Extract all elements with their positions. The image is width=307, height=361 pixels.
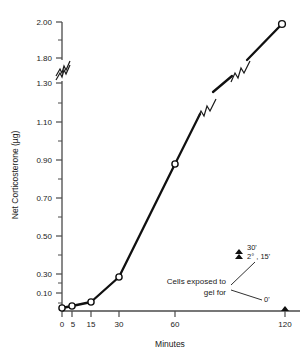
- exposure-label-30: 30': [247, 243, 257, 252]
- data-series-line: [62, 25, 281, 308]
- y-major-ticks: [56, 22, 62, 293]
- y-axis-break-icon: [56, 61, 70, 80]
- data-point-5: [69, 303, 75, 309]
- triangle-up-icon-top: [235, 249, 243, 254]
- x-tick-label-5: 5: [71, 320, 76, 329]
- y-tick-label-1-80: 1.80: [36, 54, 52, 63]
- y-tick-label-0-70: 0.70: [36, 194, 52, 203]
- data-markers: [59, 21, 286, 312]
- data-point-30: [116, 274, 122, 280]
- cells-exposed-note: Cells exposed to gel for: [167, 277, 227, 297]
- data-line-segment-lower: [62, 164, 175, 308]
- note-line-2: gel for: [204, 288, 227, 297]
- data-break-mark-2: [231, 61, 250, 82]
- x-tick-label-0: 0: [60, 320, 65, 329]
- data-line-break-marks: [197, 61, 250, 120]
- y-tick-label-0-50: 0.50: [36, 232, 52, 241]
- x-ticks: [62, 311, 285, 317]
- y-tick-label-0-30: 0.30: [36, 270, 52, 279]
- data-point-15: [88, 299, 94, 305]
- triangle-up-icon-bottom: [235, 254, 243, 259]
- leader-line-to-exposure-markers: [231, 262, 255, 285]
- zero-exposure-marker-group: 0': [264, 295, 289, 311]
- data-point-60: [172, 161, 178, 167]
- x-tick-label-15: 15: [87, 320, 96, 329]
- note-line-1: Cells exposed to: [167, 277, 227, 286]
- leader-line-to-zero-marker: [231, 290, 262, 300]
- data-point-0: [59, 305, 65, 311]
- x-axis-title: Minutes: [155, 339, 185, 349]
- y-axis-title: Net Corticosterone (µg): [10, 131, 20, 220]
- y-tick-label-1-10: 1.10: [36, 118, 52, 127]
- y-tick-label-0-90: 0.90: [36, 156, 52, 165]
- exposure-label-0: 0': [264, 295, 270, 304]
- triangle-up-icon-zero: [281, 306, 289, 311]
- data-line-segment-upper: [247, 25, 281, 60]
- y-tick-label-1-30: 1.30: [36, 79, 52, 88]
- x-tick-label-60: 60: [171, 320, 180, 329]
- y-tick-labels: 2.00 1.80 1.30 1.10 0.90 0.70 0.50 0.30 …: [36, 18, 52, 298]
- corticosterone-line-chart: 2.00 1.80 1.30 1.10 0.90 0.70 0.50 0.30 …: [0, 0, 307, 361]
- x-tick-label-30: 30: [115, 320, 124, 329]
- data-line-segment-mid-b: [213, 76, 232, 92]
- y-tick-label-0-10: 0.10: [36, 289, 52, 298]
- data-line-segment-mid-a: [175, 114, 200, 164]
- axis-group: [62, 22, 300, 311]
- y-tick-label-2-00: 2.00: [36, 18, 52, 27]
- data-point-120: [279, 21, 286, 28]
- x-tick-label-120: 120: [278, 320, 292, 329]
- x-tick-labels: 0 5 15 30 60 120: [60, 320, 292, 329]
- annotation-leader-lines: [231, 262, 262, 300]
- chart-figure: 2.00 1.80 1.30 1.10 0.90 0.70 0.50 0.30 …: [0, 0, 307, 361]
- exposure-marker-group: 30' 2° , 15': [235, 243, 271, 261]
- exposure-label-2-15: 2° , 15': [247, 252, 271, 261]
